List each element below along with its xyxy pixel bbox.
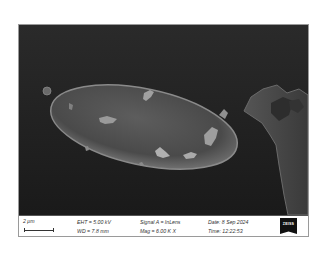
sem-data-bar: 2 μm EHT = 5.00 kV WD = 7.8 mm Signal A … (19, 215, 308, 236)
scale-bar (24, 228, 54, 232)
time-value: Time: 12:22:53 (208, 228, 243, 234)
zeiss-logo: ZEISS (280, 218, 297, 234)
date-value: Date: 8 Sep 2024 (208, 219, 248, 225)
micrograph-graphic (19, 25, 308, 215)
signal-value: Signal A = InLens (140, 219, 180, 225)
sem-image-frame: 2 μm EHT = 5.00 kV WD = 7.8 mm Signal A … (18, 24, 309, 237)
working-distance-value: WD = 7.8 mm (77, 228, 109, 234)
scale-bar-label: 2 μm (23, 218, 35, 224)
eht-value: EHT = 5.00 kV (77, 219, 111, 225)
magnification-value: Mag = 6.00 K X (140, 228, 176, 234)
sem-micrograph (19, 25, 308, 215)
